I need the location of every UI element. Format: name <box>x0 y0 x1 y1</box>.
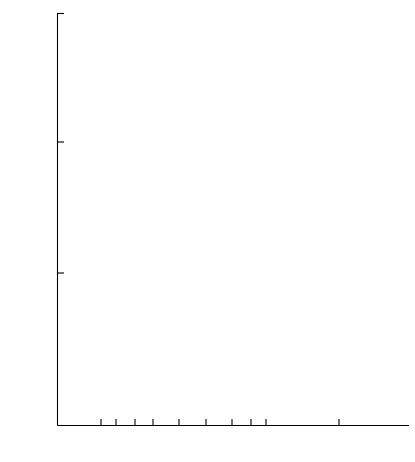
y-ticks-group <box>58 142 65 273</box>
chart-figure <box>0 0 415 462</box>
x-ticks-group <box>101 419 339 426</box>
flow-duration-curve-chart <box>0 0 415 462</box>
axes-group <box>58 13 410 426</box>
